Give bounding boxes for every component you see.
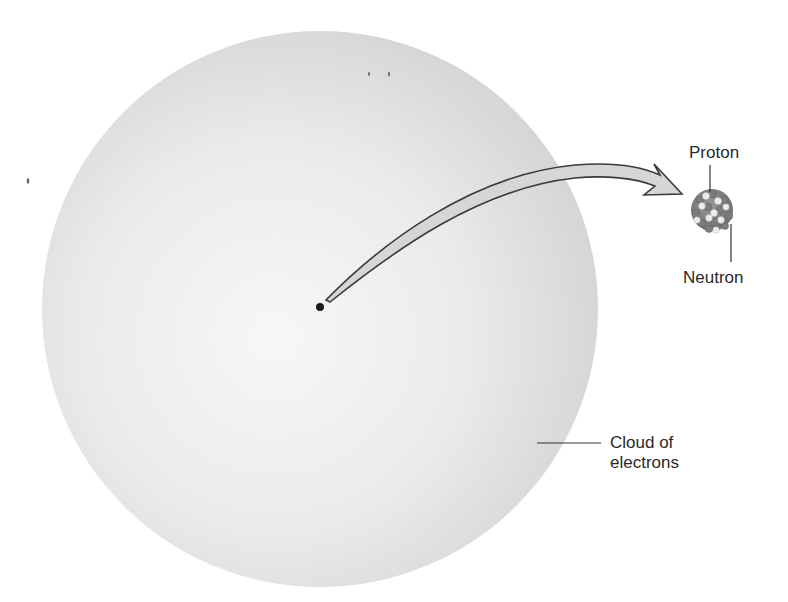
proton-label: Proton <box>689 143 739 163</box>
cloud-label-line1: Cloud of <box>610 433 679 453</box>
nucleus-enlarged <box>691 189 733 233</box>
neutron-label: Neutron <box>683 268 743 288</box>
nucleus-dot <box>316 303 324 311</box>
cloud-of-electrons-label: Cloud of electrons <box>610 433 679 473</box>
cloud-label-line2: electrons <box>610 453 679 473</box>
atom-diagram <box>0 0 788 602</box>
